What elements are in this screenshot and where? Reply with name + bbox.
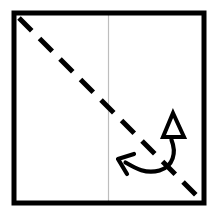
- diagram-canvas: [0, 0, 209, 218]
- origami-diagram: Origami Fold Step Diagram Square sheet o…: [0, 0, 209, 218]
